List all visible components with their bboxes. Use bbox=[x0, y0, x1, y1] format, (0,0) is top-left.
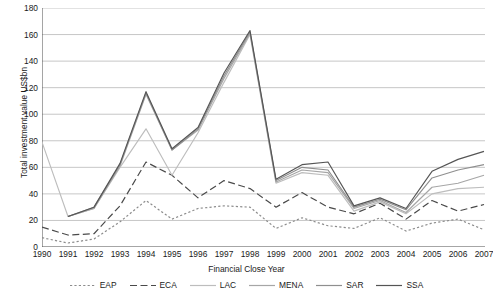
x-tick-label: 1993 bbox=[111, 250, 130, 258]
legend-item-eap[interactable]: EAP bbox=[70, 281, 117, 290]
legend-label: MENA bbox=[279, 281, 303, 289]
series-line-eap bbox=[42, 201, 484, 243]
y-tick-label: 100 bbox=[14, 110, 38, 118]
x-tick-label: 1996 bbox=[189, 250, 208, 258]
x-tick-label: 1992 bbox=[85, 250, 104, 258]
x-tick-label: 1995 bbox=[163, 250, 182, 258]
x-tick-label: 1997 bbox=[215, 250, 234, 258]
x-tick-label: 2004 bbox=[397, 250, 416, 258]
y-tick-label: 20 bbox=[14, 216, 38, 224]
x-tick-label: 1991 bbox=[59, 250, 78, 258]
x-tick-label: 2005 bbox=[423, 250, 442, 258]
plot-svg bbox=[42, 8, 485, 247]
y-tick-label: 60 bbox=[14, 163, 38, 171]
legend-label: SSA bbox=[406, 281, 423, 289]
x-axis-title: Financial Close Year bbox=[0, 264, 493, 274]
series-line-eca bbox=[42, 162, 484, 235]
x-tick-label: 2002 bbox=[345, 250, 364, 258]
x-axis-tick-labels: 1990199119921993199419951996199719981999… bbox=[42, 250, 485, 264]
y-tick-label: 40 bbox=[14, 190, 38, 198]
legend-swatch-eap bbox=[70, 281, 96, 290]
y-tick-label: 160 bbox=[14, 30, 38, 38]
legend-swatch-mena bbox=[249, 281, 275, 290]
y-tick-label: 180 bbox=[14, 4, 38, 12]
x-tick-label: 2003 bbox=[371, 250, 390, 258]
line-chart: Total investment value US$bn 02040608010… bbox=[0, 0, 493, 301]
chart-legend: EAPECALACMENASARSSA bbox=[0, 281, 493, 290]
x-tick-label: 1999 bbox=[267, 250, 286, 258]
y-tick-label: 120 bbox=[14, 83, 38, 91]
legend-swatch-lac bbox=[190, 281, 216, 290]
legend-swatch-sar bbox=[316, 281, 342, 290]
legend-item-sar[interactable]: SAR bbox=[316, 281, 363, 290]
legend-label: LAC bbox=[220, 281, 236, 289]
legend-item-lac[interactable]: LAC bbox=[190, 281, 236, 290]
x-tick-label: 1990 bbox=[33, 250, 52, 258]
legend-item-mena[interactable]: MENA bbox=[249, 281, 303, 290]
legend-label: ECA bbox=[160, 281, 177, 289]
legend-swatch-eca bbox=[130, 281, 156, 290]
legend-item-eca[interactable]: ECA bbox=[130, 281, 177, 290]
x-tick-label: 2007 bbox=[475, 250, 493, 258]
legend-label: EAP bbox=[100, 281, 117, 289]
x-tick-label: 2000 bbox=[293, 250, 312, 258]
y-tick-label: 80 bbox=[14, 137, 38, 145]
series-line-lac bbox=[42, 35, 484, 217]
x-tick-label: 2001 bbox=[319, 250, 338, 258]
legend-item-ssa[interactable]: SSA bbox=[376, 281, 423, 290]
legend-swatch-ssa bbox=[376, 281, 402, 290]
x-tick-label: 1994 bbox=[137, 250, 156, 258]
plot-area bbox=[42, 8, 485, 247]
legend-label: SAR bbox=[346, 281, 363, 289]
x-tick-label: 1998 bbox=[241, 250, 260, 258]
gridlines bbox=[42, 8, 485, 247]
x-tick-label: 2006 bbox=[449, 250, 468, 258]
y-tick-label: 140 bbox=[14, 57, 38, 65]
